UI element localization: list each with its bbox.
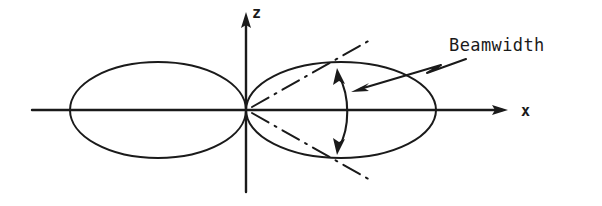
x-axis-label: x bbox=[521, 102, 530, 120]
beamwidth-diagram: x z Beamwidth bbox=[0, 0, 602, 206]
beamwidth-arc-path bbox=[339, 76, 347, 147]
beamwidth-arc-bottom-arrowhead-icon bbox=[333, 138, 345, 155]
z-axis-label: z bbox=[252, 4, 261, 22]
beamwidth-arc-top-arrowhead-icon bbox=[333, 68, 345, 85]
coordinate-axes bbox=[32, 12, 508, 192]
beamwidth-callout-label: Beamwidth bbox=[449, 37, 545, 54]
beamwidth-arc-group bbox=[333, 68, 347, 155]
radiation-pattern-svg: x z bbox=[0, 0, 602, 206]
upper-beam-edge-line bbox=[252, 39, 372, 107]
callout-leader-path bbox=[360, 59, 466, 89]
lower-beam-edge-line bbox=[252, 113, 372, 181]
